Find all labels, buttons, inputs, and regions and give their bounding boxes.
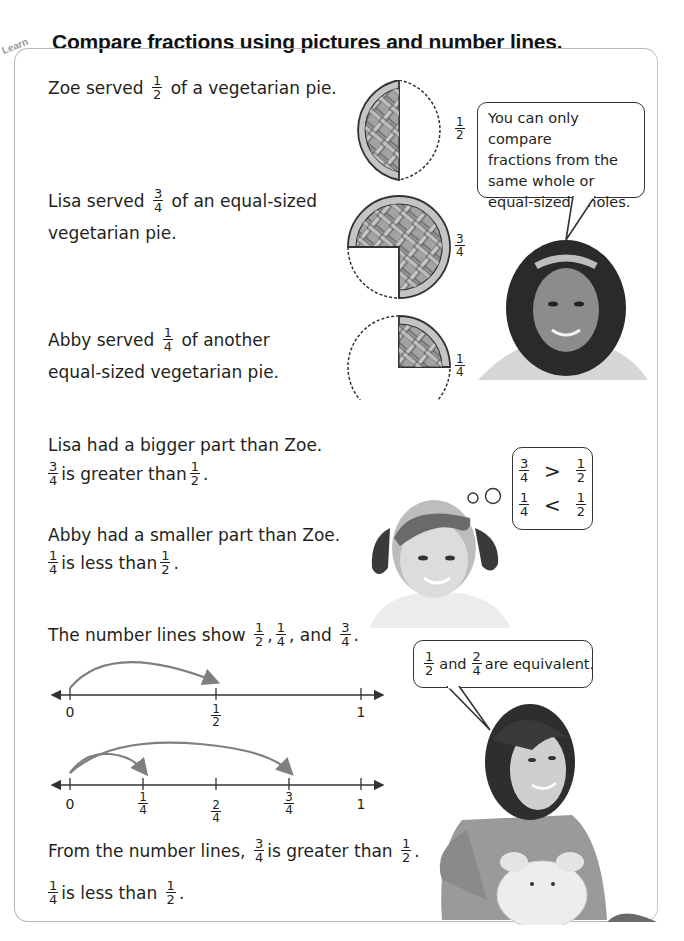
bubble-line: fractions from the bbox=[488, 150, 634, 171]
tick-label: 24 bbox=[206, 800, 226, 825]
greater-than-symbol: > bbox=[544, 461, 561, 482]
girl-pigtails-photo bbox=[360, 488, 510, 628]
lisa-sentence: Lisa served 34 of an equal-sized bbox=[48, 188, 317, 215]
jump-arrow-three-quarters bbox=[70, 743, 289, 773]
pie-label-three-quarters: 34 bbox=[452, 234, 468, 259]
pie-label-half: 12 bbox=[452, 117, 468, 142]
pie-diagrams bbox=[330, 80, 470, 400]
abby-compare-fractions: 14is less than12. bbox=[48, 550, 179, 577]
three-quarter-pie-icon bbox=[348, 196, 450, 298]
quarter-pie-icon bbox=[348, 316, 450, 400]
number-line-halves bbox=[50, 650, 390, 700]
tick-label: 14 bbox=[133, 792, 153, 817]
abby-text-b: of another bbox=[181, 330, 269, 350]
comparison-text: is greater than bbox=[61, 464, 186, 484]
abby-compare-sentence: Abby had a smaller part than Zoe. bbox=[48, 524, 340, 546]
comparison-text: is less than bbox=[61, 553, 157, 573]
lisa-sentence-line2: vegetarian pie. bbox=[48, 222, 177, 244]
tick-label: 0 bbox=[60, 704, 80, 720]
half-pie-icon bbox=[358, 80, 440, 180]
thought-row-less: 14 < 12 bbox=[519, 488, 586, 522]
pie-label-quarter: 14 bbox=[452, 354, 468, 379]
girl-piggy-bank-photo bbox=[432, 700, 662, 925]
jump-arrow-half bbox=[70, 662, 214, 688]
tick-label: 34 bbox=[279, 792, 299, 817]
number-lines-intro: The number lines show 12,14, and 34. bbox=[48, 622, 359, 649]
bubble-line: You can only compare bbox=[488, 108, 634, 150]
abby-text-a: Abby served bbox=[48, 330, 154, 350]
fraction: 12 bbox=[152, 74, 162, 101]
girl-curly-hair-photo bbox=[478, 238, 653, 383]
zoe-sentence: Zoe served 12 of a vegetarian pie. bbox=[48, 75, 337, 102]
number-line-fourths bbox=[50, 740, 390, 790]
zoe-text-b: of a vegetarian pie. bbox=[171, 78, 337, 98]
abby-sentence-line2: equal-sized vegetarian pie. bbox=[48, 361, 279, 383]
tick-label: 12 bbox=[206, 704, 226, 729]
speech-bubble-equivalent: 12 and 24 are equivalent. bbox=[413, 640, 593, 688]
lisa-compare-fractions: 34is greater than12. bbox=[48, 461, 208, 488]
tick-label: 0 bbox=[60, 796, 80, 812]
lisa-compare-sentence: Lisa had a bigger part than Zoe. bbox=[48, 434, 322, 456]
speech-bubble-tail bbox=[565, 196, 615, 244]
conclusion-less: 14is less than 12. bbox=[48, 880, 184, 907]
lisa-text-b: of an equal-sized bbox=[172, 191, 317, 211]
zoe-text-a: Zoe served bbox=[48, 78, 144, 98]
less-than-symbol: < bbox=[544, 495, 561, 516]
fraction: 14 bbox=[163, 326, 173, 353]
speech-bubble-compare: You can only compare fractions from the … bbox=[477, 102, 645, 198]
fraction: 34 bbox=[153, 187, 163, 214]
bubble-line: same whole or bbox=[488, 171, 634, 192]
tick-label: 1 bbox=[351, 796, 371, 812]
thought-row-greater: 34 > 12 bbox=[519, 454, 586, 488]
tick-label: 1 bbox=[351, 704, 371, 720]
thought-bubble: 34 > 12 14 < 12 bbox=[512, 447, 593, 530]
lisa-text-a: Lisa served bbox=[48, 191, 145, 211]
conclusion-greater: From the number lines, 34is greater than… bbox=[48, 838, 420, 865]
abby-sentence: Abby served 14 of another bbox=[48, 327, 270, 354]
